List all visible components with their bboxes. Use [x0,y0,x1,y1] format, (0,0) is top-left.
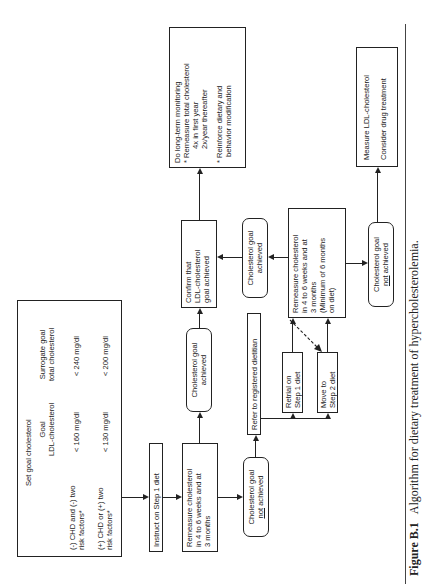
retrial-step1-box: Retrial on Step 1 diet [282,352,303,413]
remeasure1-line2: in 4 to 6 weeks and at [194,448,203,547]
not-achieved-2-line1: Cholesterol goal [372,237,381,292]
long-term-title: Do long-term monitoring [173,32,182,163]
arrow-icon [197,168,203,174]
arrow-icon [197,308,203,314]
measure-ldl-line2: Consider drug treatment [379,54,388,160]
caption-rule [405,24,406,584]
arrow-icon [375,167,381,173]
connector-achieved-to-confirm [199,314,200,328]
set-goal-box: Set goal cholesterol Goal LDL-cholestero… [17,300,122,557]
row1-total: < 240 mg/dl [72,336,81,376]
not-achieved-box-1: Cholesterol goal not achieved [243,457,269,537]
total-col-header: Surrogate goal total cholesterol [38,328,56,381]
not-emphasis: not [256,508,265,519]
connector-remeasure1-to-achieved [199,418,200,443]
goal-achieved-box-2: Cholesterol goal achieved [242,218,268,298]
row1-condition: (-) CHD and (-) two risk factors* [68,485,86,550]
confirm-ldl-box: Confirm that LDL-cholesterol goal achiev… [181,220,217,308]
arrow-icon [268,255,274,261]
connector-instruct-to-remeasure [163,497,176,498]
dashed-escalation-arrow [288,314,328,354]
confirm-line2: LDL-cholesterol [193,225,202,303]
connector-not-achieved2-to-measure [377,173,378,222]
achieved-word: achieved [256,475,265,508]
arrow-icon [253,435,259,441]
connector-goal-to-instruct [122,497,143,498]
ldl-col-header-line2: LDL-cholesterol [47,403,56,456]
arrow-icon [290,413,296,419]
connector-remeasure2-to-achieved [274,257,288,258]
not-achieved-1-line1: Cholesterol goal [247,470,256,525]
total-col-header-line1: Surrogate goal [38,328,47,381]
connector-remeasure1-to-not-achieved [218,497,237,498]
figure-caption: Figure B.1Algorithm for dietary treatmen… [407,240,422,576]
remeasure-box-1: Remeasure cholesterol in 4 to 6 weeks an… [182,443,218,552]
bullet-icon: * [215,160,224,163]
row1-condition-line1: (-) CHD and (-) two [68,485,77,550]
row2-condition-line2: risk factors* [105,488,114,550]
move-line2: Step 2 diet [328,357,337,408]
row1-condition-line2: risk factors* [77,485,86,550]
confirm-line1: Confirm that [184,225,193,303]
goal-achieved-box-1: Cholesterol goal achieved [186,328,212,412]
set-goal-title: Set goal cholesterol [24,419,33,486]
confirm-line3: goal achieved [202,225,211,303]
instruct-label: Instruct on Step 1 diet [152,448,161,547]
not-achieved-2-line2: not achieved [381,243,390,286]
goal-achieved-2-line2: achieved [255,243,264,273]
remeasure2-line3: 3 months [309,213,318,313]
not-achieved-box-2: Cholesterol goal not achieved [368,222,394,307]
refer-dietitian-box: Refer to registered dietitian [247,313,261,435]
arrow-icon [325,413,331,419]
long-term-bullet2-text: Reinforce dietary and [215,86,224,158]
connector-remeasure2-to-not-achieved [346,263,362,264]
not-achieved-1-line2: not achieved [256,475,265,518]
remeasure2-line1: Remeasure cholesterol [291,213,300,313]
long-term-sub1: 4x in first year [191,32,200,163]
connector-confirm-to-monitoring [199,174,200,220]
remeasure1-line1: Remeasure cholesterol [185,448,194,547]
long-term-monitoring-box: Do long-term monitoring * Remeasure tota… [169,27,246,168]
ldl-col-header: Goal LDL-cholesterol [38,403,56,456]
flowchart-figure: Set goal cholesterol Goal LDL-cholestero… [0,0,423,584]
remeasure2-line4: (Minimum of 6 months [318,213,327,313]
row1-ldl: < 160 mg/dl [72,412,81,452]
measure-ldl-line1: Measure LDL-cholesterol [362,54,371,160]
arrow-icon [197,412,203,418]
total-col-header-line2: total cholesterol [47,328,56,381]
figure-caption-text: Algorithm for dietary treatment of hyper… [407,240,421,514]
goal-achieved-2-line1: Cholesterol goal [246,231,255,286]
goal-achieved-1-line2: achieved [199,355,208,385]
retrial-line1: Retrial on [284,357,293,408]
bullet-icon: * [182,160,191,163]
spacer [371,54,379,160]
remeasure-box-2: Remeasure cholesterol in 4 to 6 weeks an… [288,208,346,318]
move-step2-box: Move to Step 2 diet [317,352,338,413]
goal-achieved-1-line1: Cholesterol goal [190,343,199,398]
ldl-col-header-line1: Goal [38,403,47,456]
figure-label: Figure B.1 [407,522,421,576]
not-emphasis: not [381,275,390,286]
arrow-icon [217,255,223,261]
remeasure1-line3: 3 months [203,448,212,547]
instruct-step1-box: Instruct on Step 1 diet [149,443,163,552]
remeasure2-line2: in 4 to 6 weeks and at [300,213,309,313]
refer-label: Refer to registered dietitian [250,318,259,430]
move-line1: Move to [319,357,328,408]
row2-total: < 200 mg/dl [101,336,110,376]
achieved-word: achieved [381,243,390,276]
long-term-bullet1: * Remeasure total cholesterol [182,32,191,163]
connector-not-achieved-to-refer [255,441,256,457]
retrial-line2: Step 1 diet [293,357,302,408]
long-term-bullet1-text: Remeasure total cholesterol [182,63,191,158]
measure-ldl-box: Measure LDL-cholesterol Consider drug tr… [356,47,398,167]
long-term-bullet2-line2: behavior modification [224,32,233,163]
remeasure2-line5: on diet) [327,213,336,313]
row2-ldl: < 130 mg/dl [101,412,110,452]
row2-condition-line1: (+) CHD or (+) two [96,488,105,550]
row2-condition: (+) CHD or (+) two risk factors* [96,488,114,550]
connector-achieved2-to-confirm [223,257,242,258]
long-term-bullet2: * Reinforce dietary and [215,32,224,163]
long-term-sub2: 2x/year thereafter [200,32,209,163]
